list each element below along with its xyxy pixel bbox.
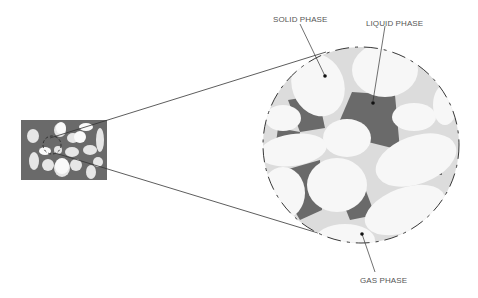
liquid-phase-label: LIQUID PHASE [366, 19, 423, 28]
liquid-phase-marker [371, 101, 375, 105]
solid-phase-label: SOLID PHASE [273, 15, 327, 24]
gas-phase-label: GAS PHASE [360, 276, 407, 285]
solid-phase-marker [323, 74, 327, 78]
soil-sample-rectangle [21, 120, 107, 180]
soil-phase-diagram [0, 0, 478, 298]
gas-phase-marker [360, 232, 364, 236]
